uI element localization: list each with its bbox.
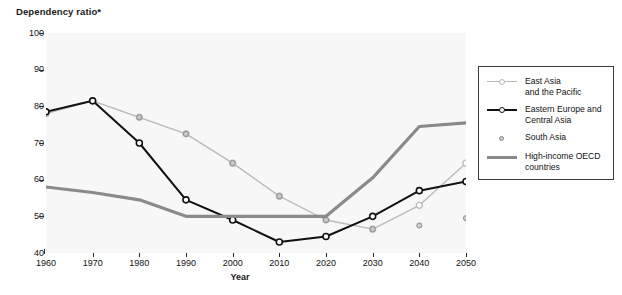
legend-swatch-icon: [485, 151, 519, 163]
plot-area: [46, 33, 466, 253]
legend-item[interactable]: Eastern Europe andCentral Asia: [485, 104, 607, 125]
series-lines: [46, 33, 466, 253]
legend-swatch-icon: [485, 104, 519, 116]
x-tick-label: 2040: [399, 259, 439, 268]
x-tick-label: 2030: [353, 259, 393, 268]
legend-swatch-icon: [485, 76, 519, 88]
y-tick-label: 60: [0, 175, 44, 184]
y-tick-label: 50: [0, 212, 44, 221]
x-tick-mark: [139, 253, 140, 257]
legend-label-line: Eastern Europe and: [525, 104, 601, 115]
axis-origin-mark: [44, 249, 45, 254]
x-tick-mark: [233, 253, 234, 257]
x-tick-mark: [373, 253, 374, 257]
y-tick-mark: [39, 70, 44, 71]
legend-item[interactable]: High-income OECDcountries: [485, 151, 607, 172]
x-tick-label: 2010: [259, 259, 299, 268]
x-tick-mark: [419, 253, 420, 257]
x-tick-label: 2000: [213, 259, 253, 268]
legend-swatch-icon: [485, 132, 519, 144]
y-tick-label: 90: [0, 65, 44, 74]
legend-label-line: South Asia: [525, 132, 566, 143]
x-tick-label: 1970: [73, 259, 113, 268]
legend-label-line: Central Asia: [525, 115, 601, 126]
x-tick-label: 2050: [446, 259, 486, 268]
x-axis-title: Year: [0, 272, 480, 282]
x-tick-label: 1990: [166, 259, 206, 268]
x-tick-mark: [279, 253, 280, 257]
x-tick-label: 1980: [119, 259, 159, 268]
x-tick-mark: [93, 253, 94, 257]
legend-label-line: countries: [525, 162, 600, 173]
y-tick-label: 100: [0, 29, 44, 38]
legend-item[interactable]: East Asiaand the Pacific: [485, 76, 607, 97]
x-tick-label: 2020: [306, 259, 346, 268]
y-tick-label: 80: [0, 102, 44, 111]
y-tick-label: 40: [0, 249, 44, 258]
y-tick-mark: [39, 33, 44, 34]
y-tick-mark: [39, 106, 44, 107]
y-tick-mark: [39, 180, 44, 181]
legend-label-line: East Asia: [525, 76, 581, 87]
legend-label-line: High-income OECD: [525, 151, 600, 162]
y-tick-mark: [39, 143, 44, 144]
x-tick-label: 1960: [26, 259, 66, 268]
x-tick-mark: [186, 253, 187, 257]
y-axis-title: Dependency ratio*: [16, 6, 101, 17]
legend-label-line: and the Pacific: [525, 87, 581, 98]
chart-legend: East Asiaand the PacificEastern Europe a…: [478, 66, 614, 180]
y-tick-label: 70: [0, 139, 44, 148]
legend-item[interactable]: South Asia: [485, 132, 607, 144]
x-tick-mark: [326, 253, 327, 257]
chart-figure: Dependency ratio* 405060708090100 196019…: [0, 0, 622, 295]
y-tick-mark: [39, 216, 44, 217]
x-tick-mark: [466, 253, 467, 257]
